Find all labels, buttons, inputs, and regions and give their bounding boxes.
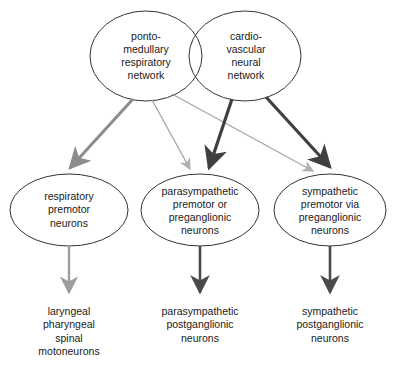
edge-respiratory-to-respiratory-premotor (70, 99, 133, 168)
edge-cardiovascular-to-parasympathetic (209, 99, 232, 168)
edge-respiratory-to-sympathetic (172, 94, 313, 171)
node-sympathetic-premotor-preganglionic-neurons[interactable] (274, 174, 386, 246)
node-ponto-medullary-respiratory-network[interactable] (90, 11, 202, 101)
node-parasympathetic-premotor-preganglionic-neurons[interactable] (141, 174, 259, 246)
node-respiratory-premotor-neurons[interactable] (10, 174, 128, 246)
edge-respiratory-to-parasympathetic (152, 100, 190, 169)
node-cardiovascular-neural-network[interactable] (189, 11, 301, 101)
diagram-graphics (0, 0, 397, 369)
diagram-canvas: ponto- medullary respiratory network car… (0, 0, 397, 369)
edge-cardiovascular-to-sympathetic (266, 97, 330, 167)
